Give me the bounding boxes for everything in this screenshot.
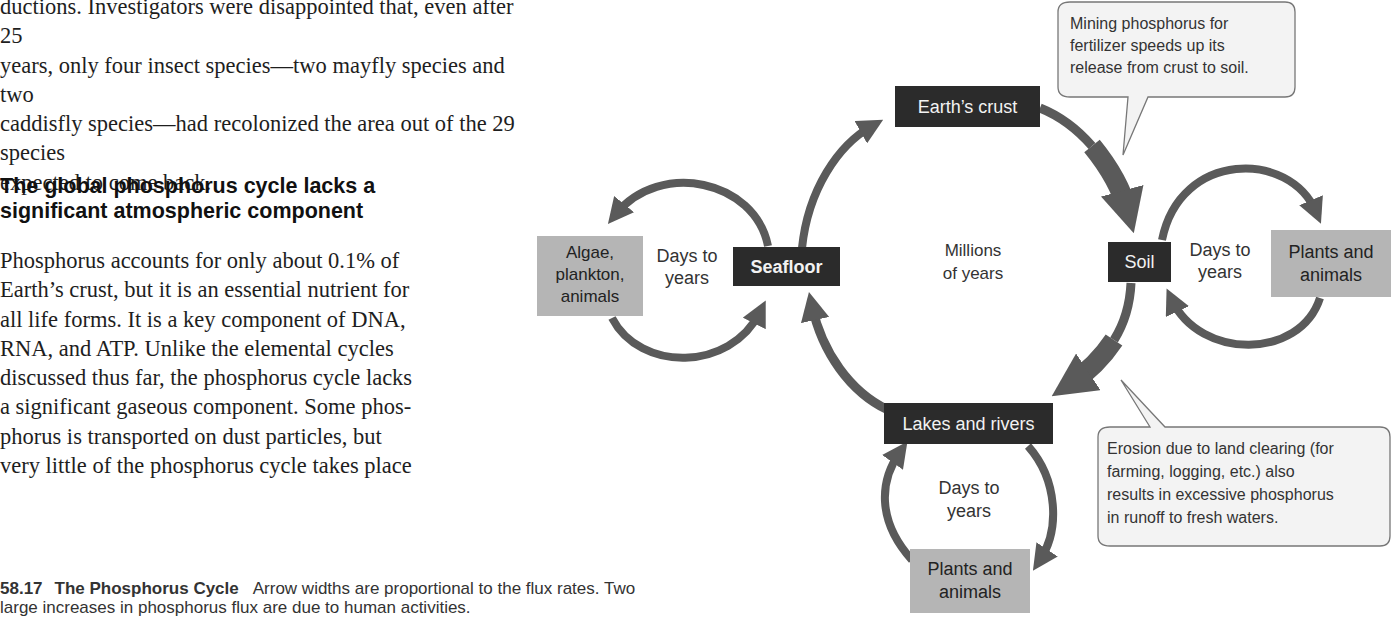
reservoir-label: Plants and	[1288, 242, 1373, 262]
reservoir-label: Plants and	[927, 559, 1012, 579]
callout-erosion: Erosion due to land clearing (for farmin…	[1098, 380, 1390, 546]
reservoir-label: plankton,	[556, 265, 625, 284]
reservoir-seafloor: Seafloor	[733, 247, 840, 286]
reservoir-label: animals	[939, 582, 1001, 602]
arrow-seafloor-to-crust	[802, 126, 872, 248]
arrow-plants-to-soil	[1172, 298, 1320, 345]
reservoir-lakes-rivers: Lakes and rivers	[884, 403, 1053, 444]
reservoir-plants-animals-land: Plants and animals	[1271, 230, 1391, 297]
arrow-lakes-to-plants	[1028, 446, 1053, 560]
timescale-label: Days to	[938, 478, 999, 498]
reservoir-soil: Soil	[1108, 242, 1171, 282]
timescale-label: Days to	[1189, 240, 1250, 260]
reservoir-algae-plankton-animals: Algae, plankton, animals	[537, 236, 643, 316]
arrow-lakes-to-seafloor	[812, 306, 888, 410]
arrow-soil-to-lakes-natural	[1114, 283, 1131, 340]
timescale-label: Millions	[945, 241, 1002, 260]
callout-text: farming, logging, etc.) also	[1107, 463, 1295, 480]
timescale-label: years	[665, 268, 709, 288]
arrow-plants-to-lakes	[885, 452, 912, 560]
timescale-label: years	[1198, 262, 1242, 282]
reservoir-label: Algae,	[566, 243, 614, 262]
reservoir-earths-crust: Earth’s crust	[895, 86, 1040, 127]
callout-text: release from crust to soil.	[1070, 59, 1249, 76]
timescale-ocean: Days to years	[656, 246, 717, 288]
callout-text: Mining phosphorus for	[1070, 15, 1229, 32]
reservoir-plants-animals-freshwater: Plants and animals	[910, 549, 1030, 613]
callout-text: results in excessive phosphorus	[1107, 486, 1334, 503]
callout-text: in runoff to fresh waters.	[1107, 509, 1278, 526]
arrow-crust-to-soil-natural	[1040, 108, 1092, 146]
callout-text: fertilizer speeds up its	[1070, 37, 1225, 54]
timescale-label: of years	[943, 264, 1003, 283]
reservoir-label: animals	[1300, 265, 1362, 285]
reservoir-label: Soil	[1124, 252, 1154, 272]
timescale-label: years	[947, 501, 991, 521]
reservoir-label: Lakes and rivers	[902, 414, 1034, 434]
reservoir-label: Seafloor	[750, 257, 822, 277]
callout-text: Erosion due to land clearing (for	[1107, 440, 1334, 457]
arrow-soil-to-plants	[1162, 169, 1316, 240]
callout-mining: Mining phosphorus for fertilizer speeds …	[1058, 2, 1295, 155]
reservoir-label: Earth’s crust	[918, 97, 1018, 117]
timescale-label: Days to	[656, 246, 717, 266]
reservoir-label: animals	[561, 287, 620, 306]
phosphorus-cycle-diagram: Mining phosphorus for fertilizer speeds …	[0, 0, 1391, 624]
arrow-crust-to-soil-mining	[1092, 146, 1128, 212]
timescale-main: Millions of years	[943, 241, 1003, 283]
timescale-soil: Days to years	[1189, 240, 1250, 282]
timescale-freshwater: Days to years	[938, 478, 999, 521]
arrow-soil-to-lakes-erosion	[1070, 340, 1114, 384]
arrow-algae-to-seafloor	[612, 312, 760, 358]
